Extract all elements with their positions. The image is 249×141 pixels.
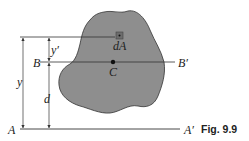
label-B-prime: B′ <box>178 56 188 70</box>
label-A: A <box>7 123 16 137</box>
label-dA: dA <box>113 39 127 53</box>
label-C: C <box>109 65 118 79</box>
figure-caption: Fig. 9.9 <box>201 123 237 135</box>
element-dA-dot <box>119 35 121 37</box>
centroid-point <box>111 60 115 64</box>
label-A-prime: A′ <box>183 123 194 137</box>
label-B: B <box>33 56 41 70</box>
label-y-prime: y′ <box>50 43 59 57</box>
label-d: d <box>44 92 51 106</box>
label-y: y <box>16 75 23 89</box>
parallel-axis-theorem-figure: dA C B B′ A A′ y y′ d Fig. 9.9 <box>0 0 249 141</box>
